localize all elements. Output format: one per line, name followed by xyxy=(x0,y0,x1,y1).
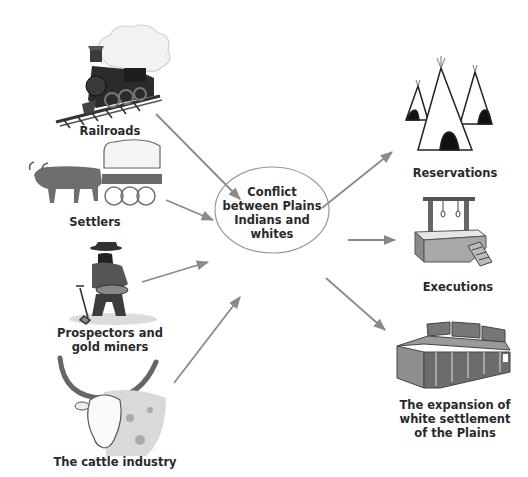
center-line-2: between Plains xyxy=(222,199,322,213)
gallows-icon xyxy=(415,197,492,266)
center-line-3: Indians and xyxy=(222,213,322,227)
ox-drawn-covered-wagon-icon xyxy=(30,140,163,205)
center-line-1: Conflict xyxy=(222,185,322,199)
center-line-4: whites xyxy=(222,227,322,241)
arrows-out xyxy=(322,152,395,330)
label-cattle: The cattle industry xyxy=(45,455,185,469)
label-prospectors: Prospectors and gold miners xyxy=(55,326,165,354)
arrow-reservations xyxy=(322,152,392,208)
steam-locomotive-icon xyxy=(56,25,170,128)
label-reservations: Reservations xyxy=(405,166,505,180)
label-expansion: The expansion of white settlement of the… xyxy=(395,398,515,440)
label-railroads: Railroads xyxy=(70,124,150,138)
center-node-label: Conflict between Plains Indians and whit… xyxy=(222,185,322,241)
gold-miner-panning-icon xyxy=(69,242,157,325)
arrow-expansion xyxy=(326,278,385,330)
arrow-settlers xyxy=(166,200,213,220)
frontier-town-building-icon xyxy=(397,322,510,388)
tipis-icon xyxy=(406,56,492,150)
longhorn-steer-icon xyxy=(60,358,166,456)
arrow-prospectors xyxy=(142,262,208,282)
label-settlers: Settlers xyxy=(60,215,130,229)
label-executions: Executions xyxy=(408,280,508,294)
arrow-cattle xyxy=(174,297,240,383)
